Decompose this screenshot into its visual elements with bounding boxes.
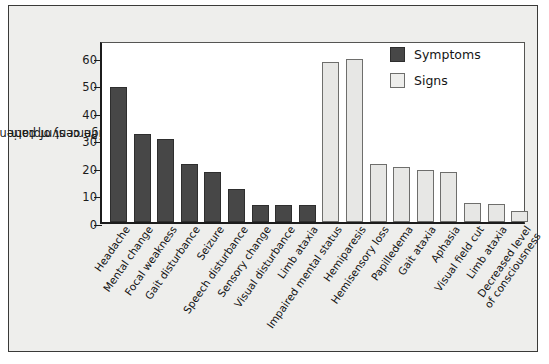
bar-focal-weakness: [157, 139, 174, 222]
legend-item-symptoms: Symptoms: [390, 47, 520, 62]
bar-decreased-level-of-consciousness: [511, 211, 528, 222]
bar-mental-change: [134, 134, 151, 222]
legend-item-signs: Signs: [390, 73, 520, 88]
bar-limb-ataxia: [299, 205, 316, 222]
bar-hemisensory-loss: [370, 164, 387, 222]
bar-papilledema: [393, 167, 410, 222]
bar-headache: [110, 87, 127, 222]
y-tick-label: 50: [82, 80, 97, 94]
legend-label-symptoms: Symptoms: [414, 47, 481, 62]
y-tick-label: 60: [82, 53, 97, 67]
bar-limb-ataxia: [488, 204, 505, 222]
x-axis-labels: HeadacheMental changeFocal weaknessGait …: [100, 224, 525, 349]
bar-seizure: [204, 172, 221, 222]
bar-gait-disturbance: [181, 164, 198, 222]
bar-impaired-mental-status: [322, 62, 339, 222]
legend-label-signs: Signs: [414, 73, 448, 88]
bar-sensory-change: [252, 205, 269, 222]
bar-hemiparesis: [346, 59, 363, 222]
y-tick-label: 40: [82, 108, 97, 122]
bar-speech-disturbance: [228, 189, 245, 222]
y-tick-label: 30: [82, 135, 97, 149]
legend-swatch-signs: [390, 73, 405, 88]
bar-visual-field-cut: [464, 203, 481, 222]
legend-swatch-symptoms: [390, 47, 405, 62]
y-tick-label: 10: [82, 190, 97, 204]
chart-legend: Symptoms Signs: [390, 47, 520, 99]
bar-visual-disturbance: [275, 205, 292, 222]
y-tick-label: 0: [90, 218, 97, 232]
bar-aphasia: [440, 172, 457, 222]
chart-figure: Percent of patients with sign or symptom…: [8, 5, 538, 352]
bar-gait-ataxia: [417, 170, 434, 222]
y-tick-label: 20: [82, 163, 97, 177]
y-axis-title: Percent of patients with sign or symptom: [27, 42, 61, 224]
